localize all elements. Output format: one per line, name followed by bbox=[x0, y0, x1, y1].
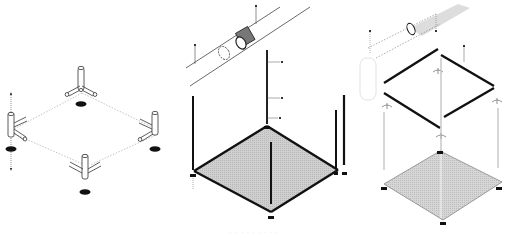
label-ticks bbox=[267, 62, 280, 118]
leveling-foot-icon bbox=[150, 146, 161, 152]
panel-mesh-platform bbox=[170, 0, 340, 238]
leveling-foot-icon bbox=[6, 146, 17, 152]
leveling-foot-icon bbox=[76, 101, 87, 107]
arrow-down-icon bbox=[10, 168, 12, 171]
pipe-shading bbox=[410, 4, 470, 36]
side-panel-outline bbox=[360, 58, 376, 100]
mesh-floor bbox=[384, 151, 502, 220]
mesh-floor bbox=[194, 126, 338, 212]
corner-connector-bottom bbox=[69, 154, 101, 179]
full-assembly-diagram bbox=[340, 0, 508, 238]
label-marker bbox=[369, 30, 371, 32]
sleeve-coupling bbox=[234, 26, 255, 50]
base-frame-diagram bbox=[0, 0, 170, 238]
panel-full-assembly bbox=[340, 0, 508, 238]
pipe-ring bbox=[405, 22, 416, 36]
arrow-up-icon bbox=[10, 92, 12, 95]
label-markers bbox=[279, 61, 283, 119]
leveling-foot-icon bbox=[80, 189, 91, 195]
mesh-platform-diagram bbox=[170, 0, 340, 238]
corner-connector-top bbox=[65, 66, 97, 96]
top-frame bbox=[384, 49, 494, 128]
figure-caption: · · · · · · · · · bbox=[0, 229, 508, 235]
panel-base-frame bbox=[0, 0, 170, 238]
corner-connector-right bbox=[138, 111, 158, 141]
label-marker bbox=[435, 30, 437, 32]
pipe-sleeve-detail bbox=[186, 7, 310, 86]
